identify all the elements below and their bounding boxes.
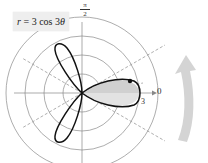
angle-label-denominator: 2 <box>83 10 87 18</box>
angle-label-numerator: π <box>80 1 90 10</box>
angle-label-zero: 0 <box>157 86 162 96</box>
equation-theta: θ <box>60 16 65 27</box>
equation-body: = 3 cos 3 <box>21 16 60 27</box>
equation-label: r = 3 cos 3 θ <box>13 12 69 31</box>
radius-label-3: 3 <box>141 97 145 106</box>
curve-point-marker <box>128 79 132 83</box>
shaded-region-lower <box>82 93 139 106</box>
rotation-arrow-icon <box>175 55 196 142</box>
angle-label-pi-over-2: π 2 <box>80 1 90 18</box>
